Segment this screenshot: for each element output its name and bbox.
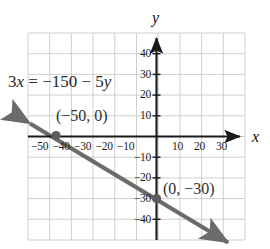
xtick-label--50: −50 bbox=[31, 141, 48, 153]
x-intercept-label: (−50, 0) bbox=[56, 108, 108, 124]
ytick-label--20: −20 bbox=[130, 172, 151, 184]
y-intercept-label: (0, −30) bbox=[163, 181, 215, 197]
xtick-label--20: −20 bbox=[96, 141, 113, 153]
xtick-label--30: −30 bbox=[74, 141, 91, 153]
ytick-label-20: 20 bbox=[134, 89, 151, 101]
xtick-label--40: −40 bbox=[53, 141, 70, 153]
xtick-label-20: 20 bbox=[194, 141, 205, 153]
ytick-label--40: −40 bbox=[130, 214, 151, 226]
ytick-label-30: 30 bbox=[134, 69, 151, 81]
y-axis-label: y bbox=[152, 10, 159, 26]
xtick-label-30: 30 bbox=[216, 141, 227, 153]
ytick-label-40: 40 bbox=[134, 48, 151, 60]
ytick-label--10: −10 bbox=[130, 152, 151, 164]
x-axis-label: x bbox=[252, 129, 259, 145]
point-y-intercept bbox=[152, 194, 161, 203]
graph-canvas bbox=[0, 0, 270, 249]
equation-annotation: 3x = −150 − 5y bbox=[8, 73, 111, 90]
ytick-label-10: 10 bbox=[134, 110, 151, 122]
ytick-label--30: −30 bbox=[130, 193, 151, 205]
coordinate-graph-figure: y x 3x = −150 − 5y (−50, 0) (0, −30) −50… bbox=[0, 0, 270, 249]
point-x-intercept bbox=[51, 131, 60, 140]
xtick-label-10: 10 bbox=[172, 141, 183, 153]
